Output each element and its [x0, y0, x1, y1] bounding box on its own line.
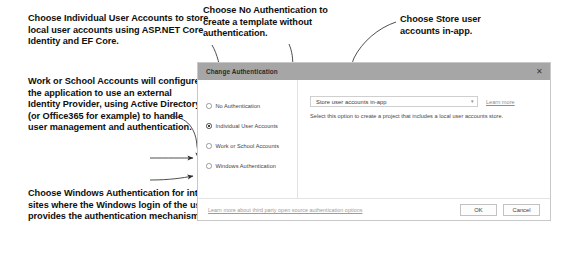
learn-more-link[interactable]: Learn more	[486, 99, 515, 105]
authentication-detail-pane: Store user accounts in-app ▾ Learn more …	[298, 80, 550, 198]
cancel-button[interactable]: Cancel	[503, 204, 540, 216]
annotation-no-authentication: Choose No Authentication to create a tem…	[203, 5, 339, 40]
radio-icon-selected	[206, 123, 212, 129]
store-user-accounts-dropdown[interactable]: Store user accounts in-app ▾	[310, 96, 478, 107]
annotation-individual-user-accounts: Choose Individual User Accounts to store…	[28, 13, 228, 48]
radio-option-work-or-school-accounts[interactable]: Work or School Accounts	[206, 136, 297, 156]
dialog-title: Change Authentication	[206, 68, 278, 75]
third-party-auth-link[interactable]: Learn more about third party open source…	[208, 207, 362, 213]
select-row: Store user accounts in-app ▾ Learn more	[310, 96, 540, 107]
radio-option-no-authentication[interactable]: No Authentication	[206, 96, 297, 116]
annotation-store-user-accounts: Choose Store user accounts in-app.	[400, 14, 520, 37]
chevron-down-icon: ▾	[471, 99, 474, 104]
radio-label: Individual User Accounts	[216, 123, 278, 129]
close-icon[interactable]: ✕	[534, 68, 545, 76]
option-description: Select this option to create a project t…	[310, 112, 540, 120]
dropdown-selected-value: Store user accounts in-app	[316, 99, 387, 105]
radio-label: Windows Authentication	[216, 163, 277, 169]
authentication-options-list: No Authentication Individual User Accoun…	[198, 80, 298, 198]
change-authentication-dialog: Change Authentication ✕ No Authenticatio…	[197, 62, 551, 221]
dialog-titlebar: Change Authentication ✕	[198, 63, 550, 80]
radio-option-individual-user-accounts[interactable]: Individual User Accounts	[206, 116, 297, 136]
radio-label: No Authentication	[216, 103, 261, 109]
annotation-work-or-school-accounts: Work or School Accounts will configure t…	[28, 76, 204, 134]
radio-icon	[206, 163, 212, 169]
annotation-windows-authentication: Choose Windows Authentication for intran…	[28, 188, 222, 223]
footer-buttons: OK Cancel	[460, 204, 540, 216]
ok-button[interactable]: OK	[460, 204, 497, 216]
dialog-body: No Authentication Individual User Accoun…	[198, 80, 550, 198]
radio-icon	[206, 103, 212, 109]
radio-icon	[206, 143, 212, 149]
radio-label: Work or School Accounts	[216, 143, 280, 149]
dialog-footer: Learn more about third party open source…	[198, 198, 550, 221]
connector-windows-authentication	[150, 176, 193, 180]
radio-option-windows-authentication[interactable]: Windows Authentication	[206, 156, 297, 176]
